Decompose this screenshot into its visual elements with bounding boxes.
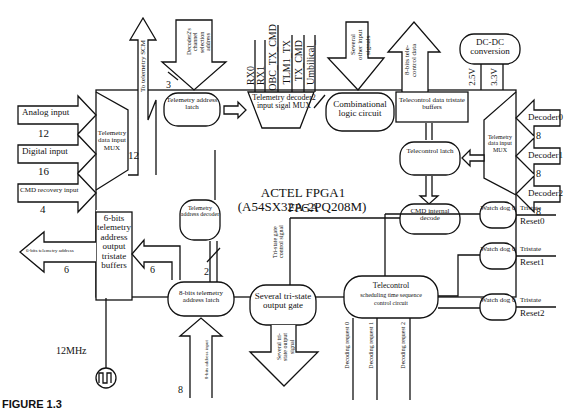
combinational-logic: Combinational logic circuit (326, 100, 394, 119)
telemetry-address-decoder: Telemetry address decoder (180, 205, 220, 218)
cmd-recovery-label: CMD recovery input (20, 187, 78, 194)
decoder2-label: Decoder2 (528, 189, 563, 198)
watchdog-0: Watch dog 0 (480, 205, 516, 212)
tristate-gate: Several tri-state output gate (250, 292, 316, 311)
addr8-width: 8 (178, 385, 183, 396)
analog-width: 12 (38, 128, 49, 140)
decoding-request-1: Decoding request 1 (368, 322, 374, 369)
left-mux-label: Telemetry data input MUX (96, 130, 128, 152)
watchdog-2-tristate: Tristate (520, 297, 541, 304)
tc-sched-line3: control circuit (344, 300, 438, 306)
fpga-title: ACTEL FPGA1 (228, 186, 378, 200)
watchdog-2: Watch dog 0 (480, 297, 516, 304)
to-scm-width: 12 (128, 150, 139, 162)
watchdog-0-tristate: Tristate (520, 205, 541, 212)
addr8-latch: 8-bits telemetry address latch (168, 290, 234, 305)
watchdog-1: Watch dog 0 (480, 246, 516, 253)
telecontrol-data-out: 8-bits tele-control data (404, 40, 424, 80)
tristate-out-label: Several tri-state output signal (276, 330, 292, 364)
dcdc-conversion: DC-DC conversion (460, 38, 520, 57)
signal-umbilical: Umbilical_ (306, 40, 317, 85)
watchdog-1-tristate: Tristate (520, 246, 541, 253)
tc-sched-line2: scheduling time sequence (344, 292, 438, 298)
voltage-2v5: 2.5V (468, 68, 477, 86)
decoder2-sel-width: 3 (166, 80, 171, 91)
signal-tlm1-tx: TLM1_TX (282, 40, 293, 84)
fpga-label: FPGA (288, 202, 319, 215)
decoding-request-0: Decoding request 0 (344, 322, 350, 369)
addr6-buffers: 6-bits telemetry address output tristate… (96, 214, 132, 271)
reset2-label: Reset2 (520, 309, 545, 318)
digital-width: 16 (38, 166, 49, 178)
signal-rx1: RX1 (256, 66, 267, 85)
decoder0-label: Decoder0 (528, 113, 563, 122)
digital-input-label: Digital input (22, 147, 68, 156)
addr6-out-label: 6-bits telemetry address (26, 248, 74, 253)
decoder2-mux: Telemetry decoder2 input sigal MUX (244, 94, 324, 111)
tc-sched-line1: Telecontrol (344, 282, 438, 290)
decoder-width: 2 (204, 267, 209, 278)
figure-caption: FIGURE 1.3 (2, 398, 62, 410)
cmd-width: 4 (40, 204, 46, 216)
decoder1-width: 8 (536, 169, 541, 180)
other-inputs-label: Several other input signals (350, 28, 366, 62)
to-scm-label: To telemetry SCM (140, 40, 147, 92)
right-mux-label: Telemetry data input MUX (484, 134, 516, 153)
addr8-input-label: 8-bits address input (204, 340, 209, 379)
decoder1-label: Decoder1 (528, 151, 563, 160)
signal-obc-tx-cmd: OBC_TX_CMD (268, 24, 279, 91)
addr6-width-in: 6 (150, 265, 155, 276)
decoder2-sel-label: Decoder2's channel selection address (186, 22, 206, 62)
clock-label: 12MHz (56, 346, 87, 357)
decoder0-width: 8 (536, 131, 541, 142)
telecontrol-buffers: Telecontrol data tristate buffers (396, 97, 468, 112)
cmd-internal-decode: CMD internal decode (400, 208, 460, 223)
analog-input-label: Analog input (22, 108, 69, 117)
voltage-3v3: 3.3V (490, 68, 499, 86)
decoding-request-2: Decoding request 2 (400, 322, 406, 369)
tristate-ctrl-label: Tri-state gate control signal (272, 222, 288, 262)
reset0-label: Reset0 (520, 217, 545, 226)
telecontrol-latch: Telecontrol latch (400, 148, 460, 155)
telemetry-address-latch: Telemetry address latch (164, 97, 220, 112)
reset1-label: Reset1 (520, 258, 545, 267)
signal-tx-cmd: TX_CMD (294, 40, 305, 81)
addr6-width-out: 6 (64, 265, 69, 276)
